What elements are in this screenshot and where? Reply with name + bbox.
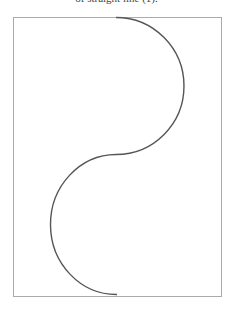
upper-arc xyxy=(116,18,184,155)
lower-arc xyxy=(50,155,117,295)
figure-frame xyxy=(14,18,222,297)
s-curve-diagram xyxy=(0,0,233,311)
